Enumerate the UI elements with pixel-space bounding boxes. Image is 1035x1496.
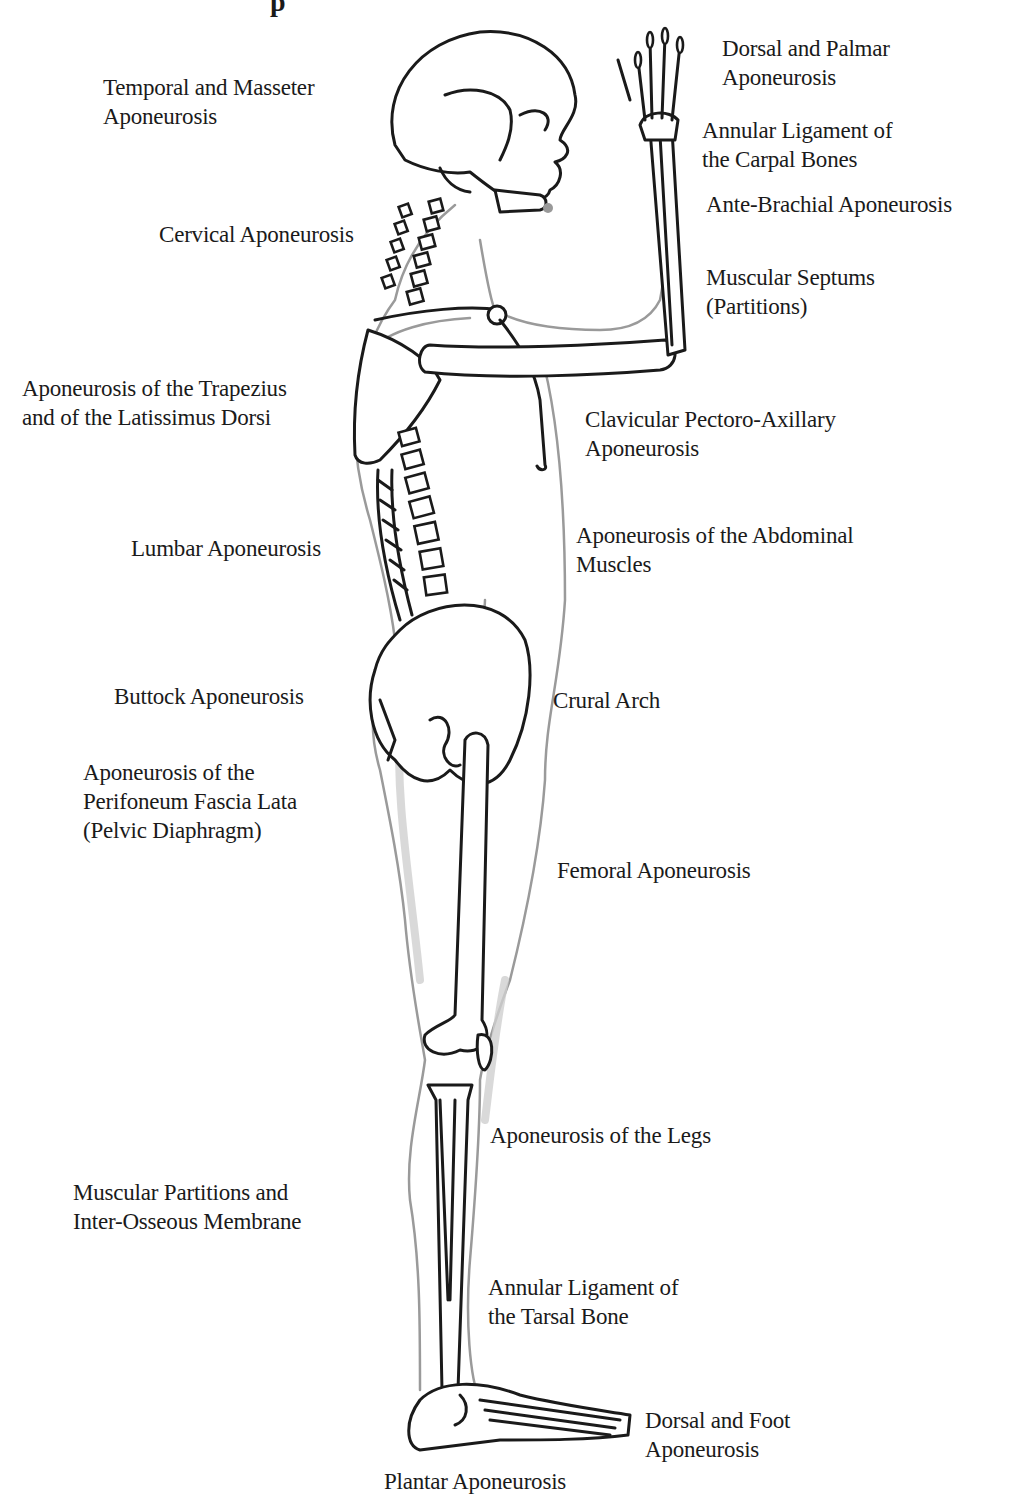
label-annular-carpal: Annular Ligament of the Carpal Bones (702, 116, 892, 174)
label-muscular-partitions: Muscular Partitions and Inter-Osseous Me… (73, 1178, 301, 1236)
anatomy-figure: p (0, 0, 1035, 1496)
label-ante-brachial: Ante-Brachial Aponeurosis (706, 190, 952, 219)
hand (618, 28, 683, 140)
scapula-and-ribcage (354, 306, 545, 470)
label-plantar: Plantar Aponeurosis (384, 1467, 566, 1496)
cervical-spine (382, 199, 444, 305)
label-annular-tarsal: Annular Ligament of the Tarsal Bone (488, 1273, 678, 1331)
foot (409, 1384, 630, 1450)
label-dorsal-palmar: Dorsal and Palmar Aponeurosis (722, 34, 890, 92)
label-dorsal-foot: Dorsal and Foot Aponeurosis (645, 1406, 790, 1464)
label-perineum-fascia-lata: Aponeurosis of the Perifoneum Fascia Lat… (83, 758, 297, 845)
label-femoral: Femoral Aponeurosis (557, 856, 751, 885)
label-crural-arch: Crural Arch (553, 686, 660, 715)
label-trapezius-latissimus: Aponeurosis of the Trapezius and of the … (22, 374, 287, 432)
label-legs: Aponeurosis of the Legs (490, 1121, 711, 1150)
label-abdominal: Aponeurosis of the Abdominal Muscles (576, 521, 853, 579)
label-buttock: Buttock Aponeurosis (114, 682, 304, 711)
skull (392, 32, 576, 213)
label-temporal-masseter: Temporal and Masseter Aponeurosis (103, 73, 314, 131)
label-muscular-septums: Muscular Septums (Partitions) (706, 263, 875, 321)
tibia-fibula (428, 1085, 472, 1390)
skeleton-illustration (0, 0, 1035, 1496)
label-cervical: Cervical Aponeurosis (159, 220, 354, 249)
femur (424, 733, 492, 1070)
label-clavicular-pectoro-axillary: Clavicular Pectoro-Axillary Aponeurosis (585, 405, 836, 463)
label-lumbar: Lumbar Aponeurosis (131, 534, 321, 563)
